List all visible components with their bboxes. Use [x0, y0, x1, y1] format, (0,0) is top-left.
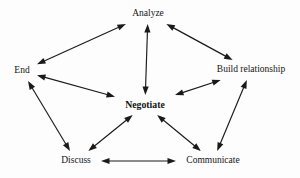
node-analyze: Analyze [130, 8, 166, 20]
arrowhead-toward-end [37, 74, 46, 80]
edge-negotiate-to-communicate [157, 115, 201, 151]
arrowhead-toward-build [241, 80, 247, 89]
edge-line [42, 77, 109, 96]
edge-negotiate-to-build [175, 80, 221, 96]
edge-layer [0, 0, 300, 178]
edge-line [31, 86, 67, 147]
edge-discuss-to-communicate [101, 158, 176, 164]
edge-end-to-negotiate [37, 74, 115, 97]
edge-line [161, 118, 196, 147]
arrowhead-toward-discuss [101, 158, 110, 164]
arrowhead-toward-analyze [144, 24, 150, 33]
node-end: End [12, 65, 31, 77]
edge-line [146, 29, 148, 89]
node-discuss: Discuss [59, 155, 93, 167]
edge-discuss-to-negotiate [88, 115, 132, 151]
edge-line [42, 26, 121, 62]
edge-analyze-to-negotiate [143, 24, 151, 95]
edge-line [171, 27, 228, 58]
edge-communicate-to-build [217, 80, 247, 151]
arrowhead-toward-communicate [217, 142, 223, 151]
arrowhead-toward-analyze [166, 24, 175, 31]
arrowhead-toward-end [37, 58, 46, 64]
edge-analyze-to-build [166, 24, 232, 60]
arrowhead-toward-end [28, 81, 35, 90]
arrowhead-toward-negotiate [175, 89, 184, 95]
edge-end-to-analyze [37, 24, 126, 64]
arrowhead-toward-communicate [168, 158, 177, 164]
arrowhead-toward-negotiate [106, 91, 115, 97]
arrowhead-toward-analyze [117, 24, 126, 30]
negotiation-cycle-diagram: AnalyzeEndBuild relationshipNegotiateDis… [0, 0, 300, 178]
node-build: Build relationship [215, 64, 287, 76]
node-communicate: Communicate [184, 155, 241, 167]
edge-line [180, 82, 215, 94]
arrowhead-toward-build [212, 80, 221, 86]
arrowhead-toward-negotiate [143, 86, 149, 95]
arrowhead-toward-discuss [63, 142, 70, 151]
edge-line [219, 85, 244, 146]
edge-end-to-discuss [28, 81, 70, 151]
node-negotiate: Negotiate [123, 99, 167, 111]
edge-line [93, 118, 129, 147]
arrowhead-toward-build [224, 53, 233, 60]
